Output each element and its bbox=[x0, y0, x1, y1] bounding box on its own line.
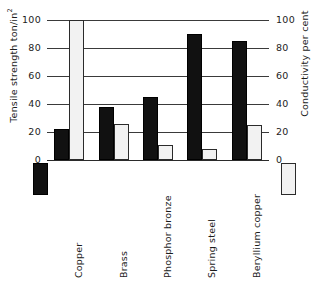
y-axis-title-left-superscript: 2 bbox=[6, 8, 14, 12]
bar-conductivity-copper bbox=[69, 20, 84, 160]
bar-tensile-spring-steel bbox=[187, 34, 202, 160]
bar-tensile-phosphor-bronze bbox=[143, 97, 158, 160]
bar-conductivity-phosphor-bronze bbox=[158, 145, 173, 160]
y-axis-right-tick-20: 20 bbox=[276, 127, 306, 137]
category-label-spring-steel: Spring steel bbox=[206, 219, 217, 278]
y-axis-left-tick-60: 60 bbox=[11, 71, 41, 81]
category-label-copper: Copper bbox=[73, 243, 84, 278]
bar-conductivity-spring-steel bbox=[202, 149, 217, 160]
legend-swatch-conductivity bbox=[281, 163, 296, 195]
category-label-phosphor-bronze: Phosphor bronze bbox=[162, 195, 173, 278]
y-axis-right-tick-40: 40 bbox=[276, 99, 306, 109]
y-axis-right-tick-60: 60 bbox=[276, 71, 306, 81]
y-axis-left-tick-100: 100 bbox=[11, 15, 41, 25]
legend-swatch-tensile-strength bbox=[33, 163, 48, 195]
category-label-beryllium-copper: Beryllium copper bbox=[251, 194, 262, 278]
y-axis-left-tick-20: 20 bbox=[11, 127, 41, 137]
y-axis-right-tick-80: 80 bbox=[276, 43, 306, 53]
gridline-0 bbox=[47, 160, 269, 161]
bar-tensile-beryllium-copper bbox=[232, 41, 247, 160]
bar-conductivity-beryllium-copper bbox=[247, 125, 262, 160]
chart-container: Tensile strength ton/in2 Conductivity pe… bbox=[0, 0, 320, 286]
category-label-brass: Brass bbox=[118, 251, 129, 278]
bar-tensile-copper bbox=[54, 129, 69, 160]
y-axis-right-tick-100: 100 bbox=[276, 15, 306, 25]
y-axis-left-tick-80: 80 bbox=[11, 43, 41, 53]
plot-area bbox=[47, 20, 269, 160]
bar-conductivity-brass bbox=[114, 124, 129, 160]
bar-tensile-brass bbox=[99, 107, 114, 160]
y-axis-left-tick-40: 40 bbox=[11, 99, 41, 109]
